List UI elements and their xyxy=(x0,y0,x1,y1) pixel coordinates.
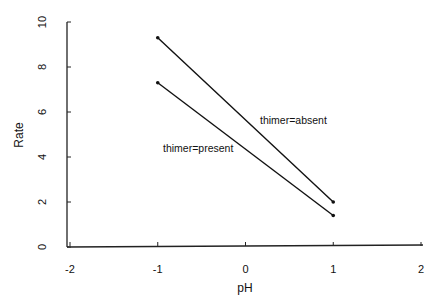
series-label: thimer=absent xyxy=(260,114,327,126)
series-group: thimer=absentthimer=present xyxy=(156,36,335,217)
y-tick-label: 4 xyxy=(36,154,48,160)
series-label: thimer=present xyxy=(163,142,233,154)
data-point xyxy=(331,214,335,218)
x-tick-label: 2 xyxy=(418,263,424,275)
y-tick-label: 8 xyxy=(36,64,48,70)
x-tick-label: -2 xyxy=(65,263,75,275)
y-tick-label: 10 xyxy=(36,16,48,28)
y-tick-label: 2 xyxy=(36,199,48,205)
x-axis-label: pH xyxy=(237,281,252,295)
x-tick-label: 0 xyxy=(242,263,248,275)
x-tick-label: 1 xyxy=(330,263,336,275)
data-point xyxy=(331,200,335,204)
data-point xyxy=(156,36,160,40)
y-tick-label: 0 xyxy=(36,244,48,250)
data-point xyxy=(156,81,160,85)
y-tick-label: 6 xyxy=(36,109,48,115)
line-chart: -2-10120246810 thimer=absentthimer=prese… xyxy=(0,0,436,302)
y-axis-label: Rate xyxy=(12,122,26,148)
x-tick-label: -1 xyxy=(153,263,163,275)
